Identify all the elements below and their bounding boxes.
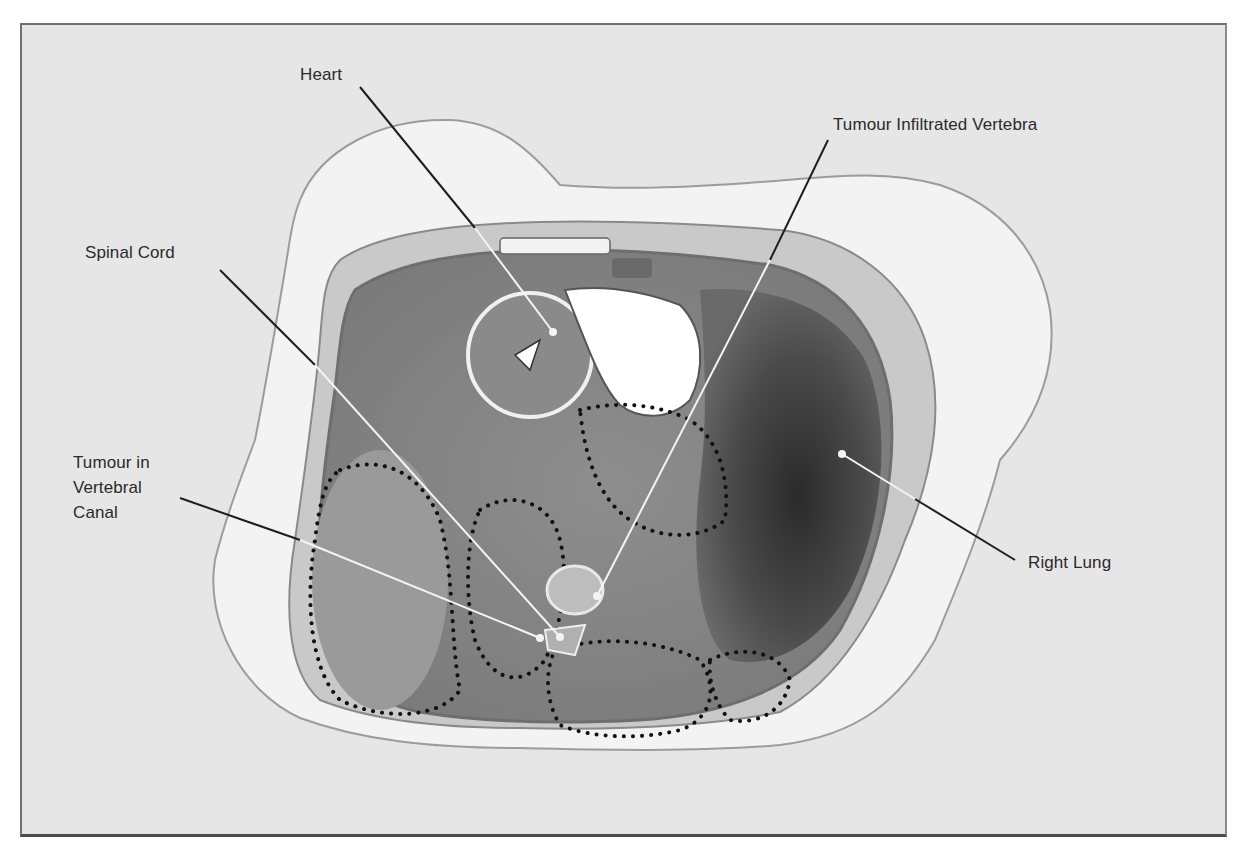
label-tumour-infiltrated-vertebra: Tumour Infiltrated Vertebra <box>833 112 1037 137</box>
label-heart: Heart <box>300 62 342 87</box>
label-tumour-in-vertebral-canal: Tumour in Vertebral Canal <box>73 450 150 525</box>
label-right-lung: Right Lung <box>1028 550 1111 575</box>
anatomical-cross-section <box>0 0 1244 853</box>
cropped-caption <box>20 841 1227 853</box>
label-spinal-cord: Spinal Cord <box>85 240 175 265</box>
